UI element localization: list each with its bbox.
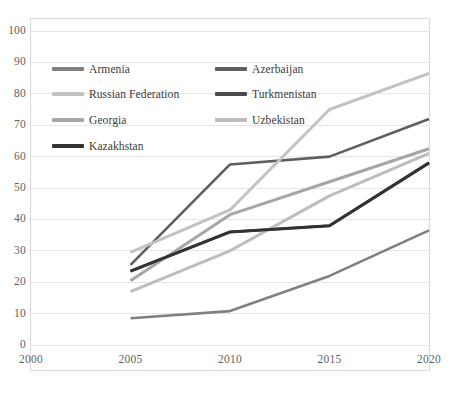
- y-tick-label: 30: [2, 244, 26, 256]
- legend-label-georgia: Georgia: [89, 114, 127, 126]
- x-tick-label: 2020: [407, 353, 451, 365]
- legend-item-armenia[interactable]: Armenia: [52, 63, 215, 75]
- legend-label-azerbaijan: Azerbaijan: [252, 63, 303, 75]
- legend-item-azerbaijan[interactable]: Azerbaijan: [215, 63, 303, 75]
- series-line-kazakhstan: [131, 163, 430, 271]
- y-tick-label: 40: [2, 212, 26, 224]
- legend-swatch-kazakhstan: [52, 144, 84, 148]
- y-tick-label: 90: [2, 55, 26, 67]
- legend-item-georgia[interactable]: Georgia: [52, 114, 215, 126]
- y-tick-label: 50: [2, 181, 26, 193]
- legend-label-turkmenistan: Turkmenistan: [252, 88, 317, 100]
- y-tick-label: 0: [2, 338, 26, 350]
- y-tick-label: 10: [2, 307, 26, 319]
- y-tick-label: 20: [2, 275, 26, 287]
- series-line-uzbekistan: [131, 153, 430, 291]
- y-tick-label: 80: [2, 87, 26, 99]
- legend-swatch-azerbaijan: [215, 67, 247, 71]
- legend-item-russian-federation[interactable]: Russian Federation: [52, 88, 215, 100]
- legend-row: Kazakhstan: [52, 133, 352, 159]
- legend-item-turkmenistan[interactable]: Turkmenistan: [215, 88, 317, 100]
- legend-row: Armenia Azerbaijan: [52, 56, 352, 82]
- line-chart: 0102030405060708090100 20002005201020152…: [0, 0, 458, 396]
- legend-item-kazakhstan[interactable]: Kazakhstan: [52, 140, 215, 152]
- x-tick-label: 2010: [208, 353, 252, 365]
- x-tick-label: 2015: [308, 353, 352, 365]
- legend-row: Russian Federation Turkmenistan: [52, 82, 352, 108]
- legend-label-armenia: Armenia: [89, 63, 130, 75]
- legend-item-uzbekistan[interactable]: Uzbekistan: [215, 114, 305, 126]
- legend-swatch-russian-federation: [52, 92, 84, 96]
- y-tick-label: 60: [2, 150, 26, 162]
- legend-swatch-armenia: [52, 67, 84, 71]
- x-tick-label: 2005: [109, 353, 153, 365]
- legend-label-kazakhstan: Kazakhstan: [89, 140, 144, 152]
- legend-label-russian-federation: Russian Federation: [89, 88, 179, 100]
- legend-swatch-uzbekistan: [215, 118, 247, 122]
- y-tick-label: 100: [2, 24, 26, 36]
- x-tick-label: 2000: [9, 353, 53, 365]
- series-line-georgia: [131, 149, 430, 281]
- y-tick-label: 70: [2, 118, 26, 130]
- legend-label-uzbekistan: Uzbekistan: [252, 114, 305, 126]
- chart-legend: Armenia Azerbaijan Russian Federation Tu…: [52, 56, 352, 158]
- legend-swatch-georgia: [52, 118, 84, 122]
- legend-swatch-turkmenistan: [215, 92, 247, 96]
- legend-row: Georgia Uzbekistan: [52, 107, 352, 133]
